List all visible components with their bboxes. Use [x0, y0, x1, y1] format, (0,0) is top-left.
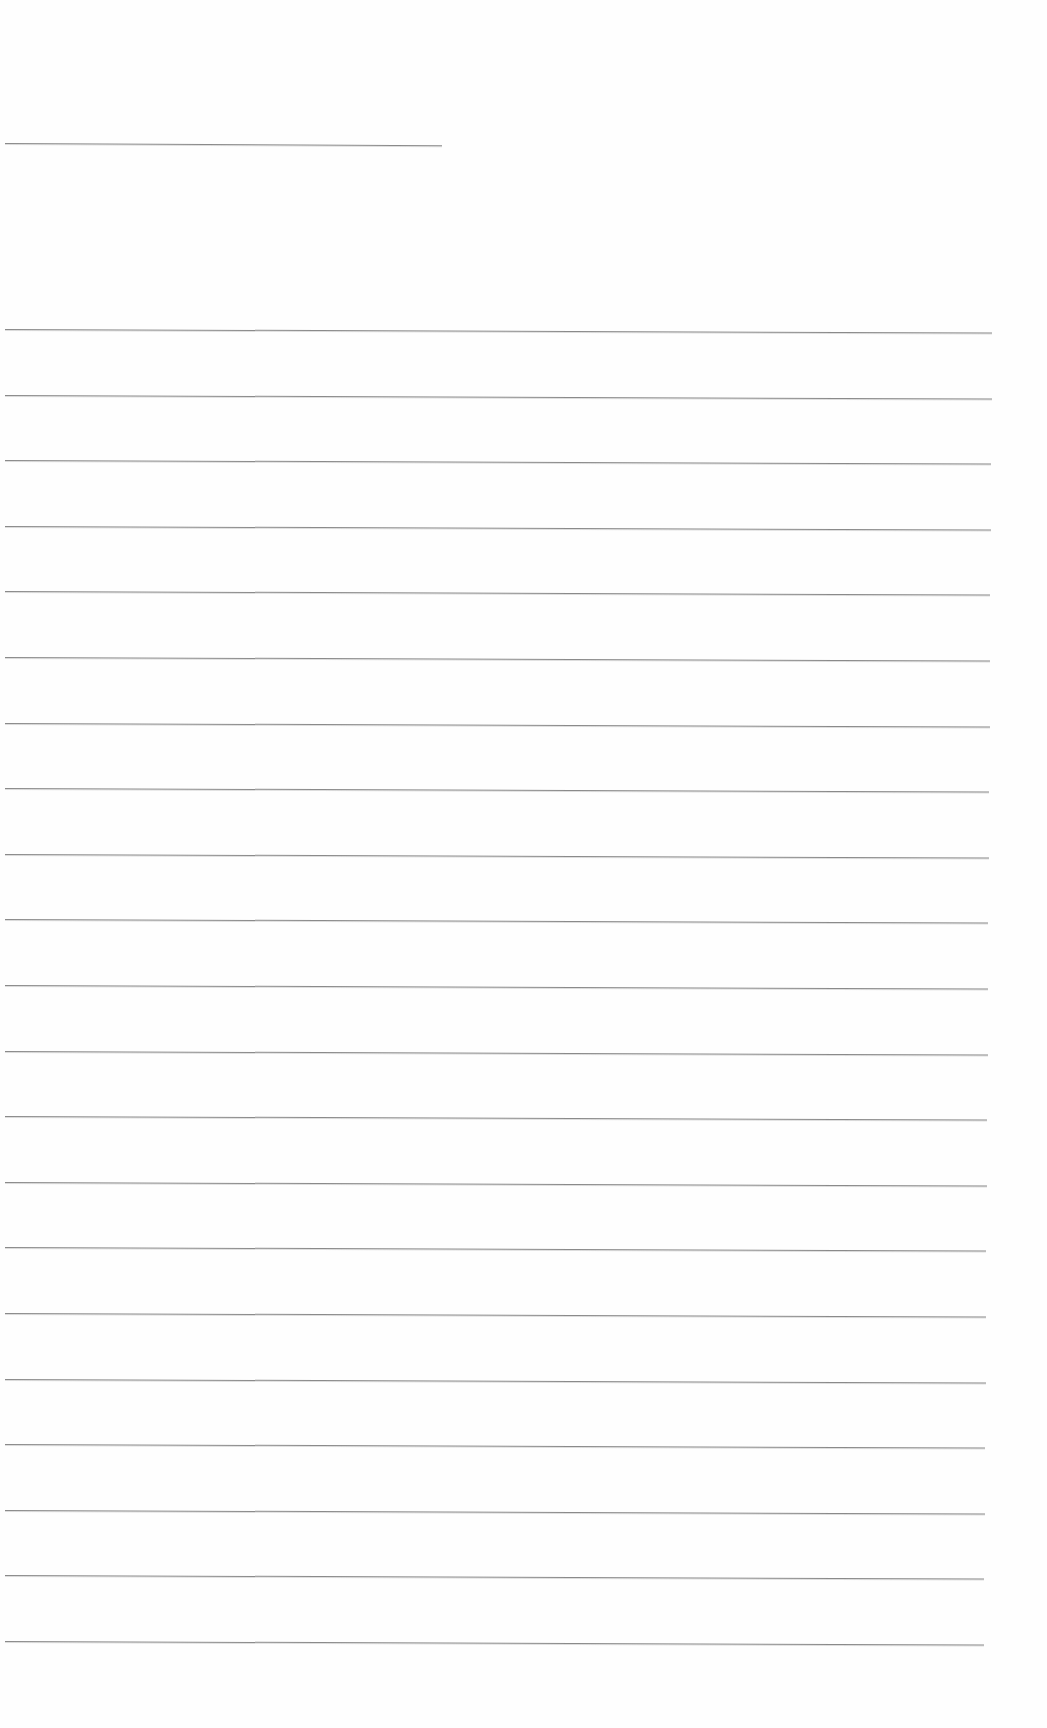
- ruled-line: [5, 1510, 985, 1514]
- ruled-line: [5, 985, 988, 989]
- ruled-line: [5, 329, 992, 333]
- ruled-line: [5, 1641, 984, 1645]
- ruled-line: [5, 854, 989, 858]
- ruled-line: [5, 657, 990, 661]
- ruled-line: [5, 788, 989, 792]
- ruled-line: [5, 460, 991, 464]
- ruled-line: [5, 395, 992, 399]
- ruled-line: [5, 1051, 988, 1055]
- ruled-line: [5, 723, 990, 727]
- ruled-line: [5, 1182, 987, 1186]
- ruled-line: [5, 1247, 986, 1251]
- ruled-line: [5, 919, 988, 923]
- ruled-line: [5, 1313, 986, 1317]
- ruled-line: [5, 526, 991, 530]
- ruled-lines: [0, 0, 1047, 1728]
- ruled-line: [5, 591, 990, 595]
- ruled-line: [5, 1444, 985, 1448]
- ruled-line: [5, 1116, 987, 1120]
- ruled-line: [5, 1379, 986, 1383]
- ruled-line: [5, 1575, 984, 1579]
- lined-paper-page: [0, 0, 1047, 1728]
